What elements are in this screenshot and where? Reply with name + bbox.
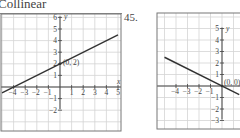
y-tick-label: −2 [211, 105, 219, 114]
y-tick-label: 5 [53, 25, 57, 34]
x-tick-label: 2 [81, 88, 85, 97]
y-tick-label: 4 [53, 36, 57, 45]
y-tick-label: −3 [211, 116, 219, 125]
x-tick-label: −3 [183, 87, 191, 96]
x-tick-label: 5 [116, 88, 120, 97]
y-tick-label: 1 [53, 71, 57, 80]
x-tick-label: −2 [194, 87, 202, 96]
x-axis-label: x [116, 77, 121, 86]
x-tick-label: −3 [20, 88, 28, 97]
x-tick-label: 4 [105, 88, 109, 97]
y-tick-label: −2 [49, 106, 57, 115]
x-tick-label: 3 [93, 88, 97, 97]
x-tick-label: −1 [43, 88, 51, 97]
graph-frame [1, 14, 121, 131]
point-label: (0, 0) [224, 78, 240, 87]
x-tick-label: −4 [171, 87, 179, 96]
graph-1: 654321−1−2−4−3−2−112345yx(0, 2) [0, 0, 153, 138]
x-tick-label: −2 [32, 88, 40, 97]
y-tick-label: 1 [215, 70, 219, 79]
x-tick-label: 1 [70, 88, 74, 97]
graph-2: 54321−1−2−3−4−3−2−1y(0, 0) [130, 0, 240, 138]
graphs-canvas: 654321−1−2−4−3−2−112345yx(0, 2)54321−1−2… [0, 0, 240, 138]
y-tick-label: 5 [215, 24, 219, 33]
point-label: (0, 2) [63, 58, 80, 67]
y-tick-label: 4 [215, 36, 219, 45]
y-axis-label: y [225, 24, 230, 33]
y-tick-label: 3 [215, 47, 219, 56]
point-marker [59, 63, 61, 65]
y-tick-label: 3 [53, 48, 57, 57]
y-tick-label: 2 [215, 59, 219, 68]
x-tick-label: −1 [206, 87, 214, 96]
point-marker [221, 85, 223, 87]
